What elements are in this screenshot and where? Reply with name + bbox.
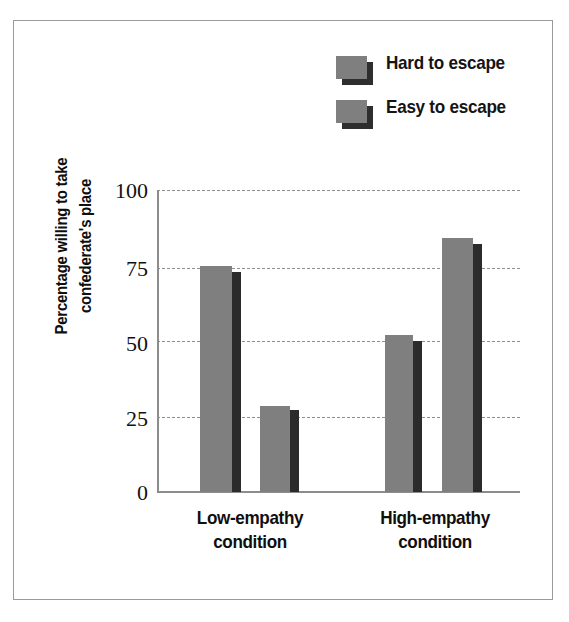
legend-item-hard-to-escape: Hard to escape (336, 52, 536, 96)
legend-swatch-easy-to-escape (336, 100, 376, 128)
legend-swatch-face-icon (336, 56, 367, 79)
legend-swatch-hard-to-escape (336, 56, 376, 84)
x-category-high-empathy: High-empathy condition (355, 506, 515, 554)
bar-face (200, 266, 232, 492)
y-tick-75: 75 (126, 256, 148, 282)
chart-legend: Hard to escape Easy to escape (336, 52, 536, 140)
legend-item-easy-to-escape: Easy to escape (336, 96, 536, 140)
y-axis-title: Percentage willing to take confederate's… (50, 116, 106, 376)
bar-face (442, 238, 473, 492)
y-tick-100: 100 (115, 178, 148, 204)
y-tick-25: 25 (126, 406, 148, 432)
x-category-high-empathy-line1: High-empathy (363, 506, 507, 530)
bar-shadow (232, 272, 241, 492)
legend-label-easy-to-escape: Easy to escape (386, 96, 506, 118)
y-axis-title-line2: confederate's place (74, 132, 98, 361)
x-category-high-empathy-line2: condition (363, 530, 507, 554)
figure-root: Hard to escape Easy to escape 100 75 50 … (0, 0, 569, 622)
x-category-low-empathy: Low-empathy condition (170, 506, 330, 554)
x-category-low-empathy-line1: Low-empathy (178, 506, 322, 530)
y-tick-0: 0 (137, 480, 148, 506)
plot-area (157, 190, 520, 492)
y-axis-line (157, 190, 159, 492)
x-category-low-empathy-line2: condition (178, 530, 322, 554)
y-axis-title-line1: Percentage willing to take (50, 132, 74, 361)
bar-face (385, 335, 413, 492)
legend-label-hard-to-escape: Hard to escape (386, 52, 505, 74)
gridline-100 (157, 190, 520, 191)
legend-swatch-face-icon (336, 100, 367, 123)
y-tick-50: 50 (126, 331, 148, 357)
bar-shadow (290, 410, 299, 492)
bar-shadow (473, 244, 482, 492)
bar-face (260, 406, 290, 492)
bar-shadow (413, 341, 422, 492)
